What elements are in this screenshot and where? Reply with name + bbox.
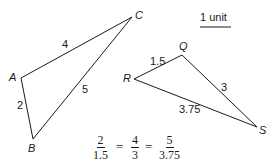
unit-scale-label: 1 unit [200,12,227,23]
vertex-c-label: C [135,10,143,21]
side-bc-length: 5 [82,84,88,95]
side-qs-length: 3 [221,82,227,93]
triangle-abc [21,17,132,139]
side-ac-length: 4 [62,39,68,50]
fraction-numerator: 5 [166,134,174,148]
fraction-5-over-3.75: 5 3.75 [159,134,180,161]
fraction-numerator: 2 [97,134,105,148]
equals-sign: = [116,140,123,153]
equals-sign: = [145,140,152,153]
vertex-r-label: R [123,73,131,84]
vertex-b-label: B [28,143,35,154]
fraction-denominator: 3 [132,148,138,161]
vertex-a-label: A [9,72,16,83]
fraction-2-over-1.5: 2 1.5 [93,134,108,161]
fraction-4-over-3: 4 3 [131,134,139,161]
fraction-denominator: 1.5 [93,148,108,161]
fraction-numerator: 4 [131,134,139,148]
vertex-s-label: S [259,125,266,136]
side-rs-length: 3.75 [179,104,200,115]
vertex-q-label: Q [179,41,188,52]
side-ab-length: 2 [17,100,23,111]
side-rq-length: 1.5 [150,56,165,67]
fraction-denominator: 3.75 [159,148,180,161]
